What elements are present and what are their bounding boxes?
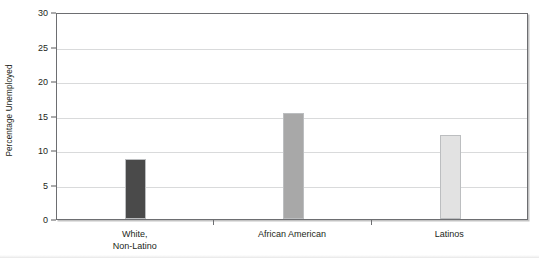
x-axis-tick-mark [371, 220, 372, 225]
y-axis-title-text: Percentage Unemployed [5, 64, 14, 156]
y-axis-tick-label: 20 [38, 78, 48, 87]
y-axis-tick-label: 30 [38, 9, 48, 18]
plot-area [56, 13, 528, 220]
y-axis-tick-group: 051015202530 [18, 0, 56, 260]
bar [440, 135, 461, 219]
y-axis-tick-label: 10 [38, 147, 48, 156]
y-axis-tick-label: 0 [43, 216, 48, 225]
x-axis-category-label: White, Non-Latino [113, 229, 157, 252]
y-axis-title: Percentage Unemployed [0, 0, 18, 220]
x-axis-tick-mark [213, 220, 214, 225]
bar [283, 113, 304, 219]
y-axis-tick-label: 25 [38, 43, 48, 52]
bar-chart-figure: Percentage Unemployed 051015202530 White… [0, 0, 539, 260]
gridline [57, 83, 527, 84]
x-axis-category-label: African American [258, 229, 326, 241]
x-axis-category-label: Latinos [435, 229, 464, 241]
y-axis-tick-label: 5 [43, 181, 48, 190]
y-axis-tick-label: 15 [38, 112, 48, 121]
bottom-rule [0, 255, 539, 258]
gridline [57, 49, 527, 50]
bar [125, 159, 146, 219]
